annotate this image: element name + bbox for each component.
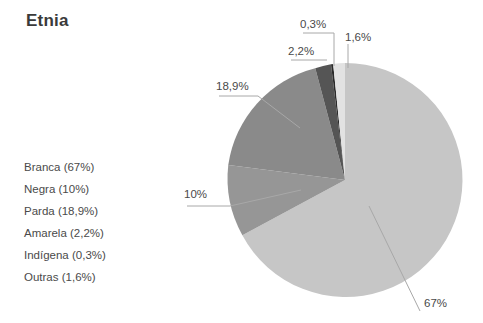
legend-item-parda: Parda (18,9%): [24, 200, 194, 222]
legend-item-negra: Negra (10%): [24, 178, 194, 200]
data-label-outras: 1,6%: [345, 31, 371, 43]
legend-item-outras: Outras (1,6%): [24, 266, 194, 288]
legend-item-amarela: Amarela (2,2%): [24, 222, 194, 244]
data-label-amarela: 2,2%: [288, 45, 314, 57]
data-label-parda: 18,9%: [216, 80, 249, 92]
chart-legend: Branca (67%) Negra (10%) Parda (18,9%) A…: [24, 156, 194, 288]
legend-item-indigena: Indígena (0,3%): [24, 244, 194, 266]
data-label-branca: 67%: [424, 297, 447, 309]
legend-item-branca: Branca (67%): [24, 156, 194, 178]
chart-screenshot: Etnia 0,3% 1,6% 2,2% 18,9% 10% 67% Branc…: [0, 0, 483, 323]
data-label-indigena: 0,3%: [300, 18, 326, 30]
